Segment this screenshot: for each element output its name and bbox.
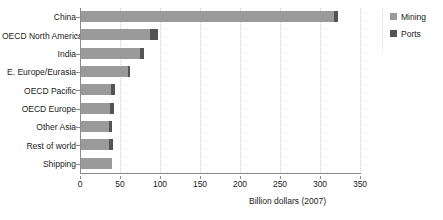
- stacked-bar: [80, 48, 144, 59]
- y-axis-label: Other Asia: [2, 122, 76, 132]
- bar-segment-mining: [80, 139, 109, 150]
- y-axis-labels: ChinaOECD North AmericaIndiaE. Europe/Eu…: [0, 8, 76, 173]
- bar-row: [80, 100, 360, 118]
- bar-segment-mining: [80, 11, 334, 22]
- legend-swatch-icon: [390, 30, 397, 37]
- x-axis-tick-label: 300: [313, 179, 327, 189]
- y-axis-label: OECD Europe: [2, 104, 76, 114]
- stacked-bar: [80, 84, 115, 95]
- bar-segment-mining: [80, 103, 110, 114]
- y-axis-label: OECD Pacific: [2, 86, 76, 96]
- bar-segment-mining: [80, 48, 140, 59]
- bar-segment-mining: [80, 29, 150, 40]
- bar-row: [80, 45, 360, 63]
- chart-legend: MiningPorts: [390, 12, 443, 46]
- x-axis-tick-label: 0: [78, 179, 83, 189]
- bar-row: [80, 26, 360, 44]
- bar-row: [80, 155, 360, 173]
- y-axis-label: OECD North America: [2, 31, 76, 41]
- bar-row: [80, 81, 360, 99]
- gridline-350: [360, 8, 362, 173]
- stacked-bar: [80, 139, 113, 150]
- legend-swatch-icon: [390, 13, 397, 20]
- bar-row: [80, 8, 360, 26]
- stacked-bar: [80, 29, 158, 40]
- y-axis-label: E. Europe/Eurasia: [2, 67, 76, 77]
- stacked-bar: [80, 103, 114, 114]
- plot-area: [80, 8, 360, 173]
- y-axis-label: Rest of world: [2, 141, 76, 151]
- bar-segment-mining: [80, 121, 109, 132]
- bar-segment-ports: [109, 121, 112, 132]
- bar-chart: ChinaOECD North AmericaIndiaE. Europe/Eu…: [0, 0, 443, 220]
- y-axis-label: India: [2, 49, 76, 59]
- bar-segment-ports: [111, 84, 115, 95]
- stacked-bar: [80, 158, 112, 169]
- bar-segment-ports: [128, 66, 130, 77]
- x-axis-tick-label: 50: [115, 179, 124, 189]
- bar-segment-ports: [110, 103, 114, 114]
- x-axis-tick-label: 250: [273, 179, 287, 189]
- bar-segment-ports: [140, 48, 144, 59]
- stacked-bar: [80, 66, 130, 77]
- bar-row: [80, 63, 360, 81]
- stacked-bar: [80, 121, 112, 132]
- legend-divider: [382, 8, 384, 52]
- y-axis-line: [80, 8, 81, 174]
- stacked-bar: [80, 11, 338, 22]
- legend-item[interactable]: Mining: [390, 12, 443, 21]
- bar-segment-ports: [150, 29, 158, 40]
- y-axis-label: China: [2, 12, 76, 22]
- legend-label: Mining: [401, 12, 426, 22]
- x-axis-line: [80, 173, 361, 174]
- legend-label: Ports: [401, 29, 421, 39]
- bar-segment-mining: [80, 158, 112, 169]
- bar-row: [80, 118, 360, 136]
- x-axis-title: Billion dollars (2007): [200, 196, 375, 206]
- x-axis-tick-label: 100: [153, 179, 167, 189]
- x-axis-tick-label: 200: [233, 179, 247, 189]
- x-axis-tick-label: 150: [193, 179, 207, 189]
- bar-row: [80, 136, 360, 154]
- bar-segment-mining: [80, 84, 111, 95]
- bar-segment-mining: [80, 66, 128, 77]
- x-axis-tick-labels: 050100150200250300350: [80, 176, 361, 190]
- x-axis-tick-label: 350: [353, 179, 367, 189]
- bar-segment-ports: [109, 139, 113, 150]
- legend-item[interactable]: Ports: [390, 29, 443, 38]
- y-axis-label: Shipping: [2, 159, 76, 169]
- bar-segment-ports: [334, 11, 337, 22]
